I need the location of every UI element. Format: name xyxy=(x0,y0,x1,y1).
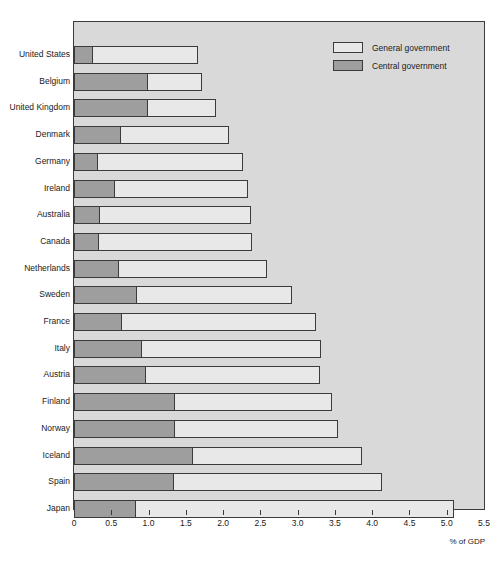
x-tick-label: 0 xyxy=(72,518,77,528)
x-tick xyxy=(409,510,410,515)
x-tick xyxy=(223,510,224,515)
bar-central-government xyxy=(74,313,122,331)
x-tick xyxy=(111,510,112,515)
bar-central-government xyxy=(74,286,137,304)
legend-label: Central government xyxy=(372,61,447,71)
bar-central-government xyxy=(74,206,100,224)
category-label: Iceland xyxy=(0,450,70,460)
x-tick-label: 2.0 xyxy=(217,518,229,528)
bar-general-government xyxy=(74,233,252,251)
x-axis-title: % of GDP xyxy=(0,537,485,546)
x-tick-label: 3.0 xyxy=(292,518,304,528)
category-label: Australia xyxy=(0,209,70,219)
category-label: Netherlands xyxy=(0,263,70,273)
x-tick xyxy=(335,510,336,515)
x-tick xyxy=(149,510,150,515)
x-tick-label: 2.5 xyxy=(254,518,266,528)
x-tick-label: 3.5 xyxy=(329,518,341,528)
legend-item: Central government xyxy=(333,58,450,73)
category-label: Germany xyxy=(0,156,70,166)
category-label: Japan xyxy=(0,503,70,513)
x-tick-label: 1.5 xyxy=(180,518,192,528)
x-tick-label: 1.0 xyxy=(143,518,155,528)
x-tick-label: 4.0 xyxy=(366,518,378,528)
category-label: Italy xyxy=(0,343,70,353)
category-label: Canada xyxy=(0,236,70,246)
bar-central-government xyxy=(74,447,193,465)
bar-central-government xyxy=(74,99,148,117)
category-label: Belgium xyxy=(0,76,70,86)
category-label: Austria xyxy=(0,369,70,379)
bar-central-government xyxy=(74,46,93,64)
category-label: Finland xyxy=(0,396,70,406)
bar-central-government xyxy=(74,260,119,278)
chart-legend: General governmentCentral government xyxy=(333,40,450,76)
bar-central-government xyxy=(74,126,121,144)
bar-central-government xyxy=(74,393,175,411)
x-tick xyxy=(260,510,261,515)
x-tick-label: 5.5 xyxy=(478,518,490,528)
bar-central-government xyxy=(74,500,136,518)
plot-area xyxy=(73,21,485,510)
x-tick-label: 5.0 xyxy=(441,518,453,528)
legend-item: General government xyxy=(333,40,450,55)
category-label: Sweden xyxy=(0,289,70,299)
legend-swatch-central xyxy=(333,60,363,71)
bar-central-government xyxy=(74,233,99,251)
x-tick-label: 0.5 xyxy=(105,518,117,528)
legend-label: General government xyxy=(372,43,450,53)
bar-central-government xyxy=(74,366,146,384)
category-label: Denmark xyxy=(0,129,70,139)
bar-central-government xyxy=(74,473,174,491)
x-axis: 00.51.01.52.02.53.03.54.04.55.05.5 xyxy=(73,510,485,511)
category-label: Norway xyxy=(0,423,70,433)
x-tick xyxy=(298,510,299,515)
x-tick-label: 4.5 xyxy=(404,518,416,528)
bar-general-government xyxy=(74,153,243,171)
legend-swatch-general xyxy=(333,42,363,53)
x-tick xyxy=(447,510,448,515)
bar-central-government xyxy=(74,340,142,358)
bar-general-government xyxy=(74,46,198,64)
bar-central-government xyxy=(74,420,175,438)
category-axis-labels: United StatesBelgiumUnited KingdomDenmar… xyxy=(0,0,70,567)
category-label: United Kingdom xyxy=(0,102,70,112)
bar-central-government xyxy=(74,73,148,91)
category-label: Spain xyxy=(0,476,70,486)
category-label: Ireland xyxy=(0,183,70,193)
bar-general-government xyxy=(74,206,251,224)
x-tick xyxy=(186,510,187,515)
bar-central-government xyxy=(74,153,98,171)
category-label: United States xyxy=(0,49,70,59)
bar-central-government xyxy=(74,180,115,198)
bar-chart: United StatesBelgiumUnited KingdomDenmar… xyxy=(0,0,501,567)
x-tick xyxy=(372,510,373,515)
category-label: France xyxy=(0,316,70,326)
